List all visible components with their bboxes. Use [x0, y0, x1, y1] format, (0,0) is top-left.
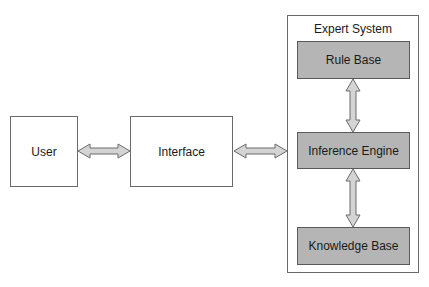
rule-inference-arrow-icon — [346, 79, 360, 132]
user-interface-arrow-icon — [78, 144, 130, 158]
inference-knowledge-arrow-icon — [346, 169, 360, 227]
arrows-layer — [0, 0, 429, 287]
interface-inference-arrow-icon — [234, 144, 287, 158]
